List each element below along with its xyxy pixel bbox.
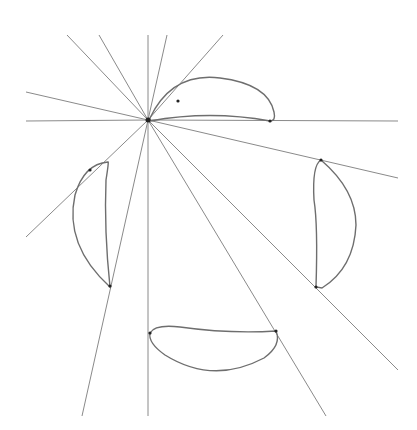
crescent-bottom-tip-0 (148, 331, 151, 334)
crescent-shapes (73, 77, 356, 370)
crescent-right-tip-1 (314, 285, 317, 288)
crescent-left (73, 162, 110, 287)
ray-line-6 (26, 120, 148, 121)
crescent-left-tip-0 (88, 168, 91, 171)
center-point (146, 118, 151, 123)
ray-line-8 (148, 120, 398, 178)
crescent-top-tip-0 (176, 99, 179, 102)
crescent-top-tip-1 (268, 119, 271, 122)
crescent-top (150, 77, 275, 121)
ray-line-13 (148, 120, 398, 370)
crescent-bottom-tip-1 (274, 329, 277, 332)
geometric-diagram (0, 0, 417, 430)
crescent-left-tip-1 (108, 284, 111, 287)
crescent-right-tip-0 (319, 158, 322, 161)
ray-lines (26, 35, 398, 416)
ray-line-0 (67, 35, 148, 120)
crescent-right (314, 160, 356, 288)
crescent-bottom (150, 326, 278, 371)
ray-line-5 (26, 92, 148, 120)
ray-line-1 (99, 35, 148, 120)
ray-line-3 (148, 35, 167, 120)
ray-line-12 (148, 120, 326, 416)
ray-line-9 (26, 120, 148, 237)
